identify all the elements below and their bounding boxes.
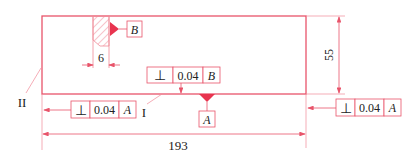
- datum-a-label: A: [202, 113, 211, 127]
- tolerance-value: 0.04: [359, 101, 380, 115]
- surface-label-ii: II: [18, 68, 41, 110]
- tolerance-frame-top-center: ⊥ 0.04 B: [147, 67, 220, 93]
- roman-one-label: I: [142, 105, 146, 120]
- tolerance-frame-right: ⊥ 0.04 A: [308, 99, 401, 116]
- datum-b-label: B: [131, 23, 139, 37]
- height-dimension: 55: [306, 16, 345, 94]
- slot-width-value: 6: [98, 51, 104, 65]
- length-value: 193: [168, 138, 188, 153]
- roman-two-label: II: [18, 95, 27, 110]
- perpendicularity-icon: ⊥: [154, 68, 166, 83]
- tolerance-frame-bottom-left: ⊥ 0.04 A: [44, 101, 136, 118]
- tolerance-value: 0.04: [94, 103, 115, 117]
- datum-a-marker: A: [199, 94, 215, 127]
- slot-width-dimension: 6: [82, 51, 120, 65]
- surface-label-i: I: [142, 94, 162, 120]
- perpendicularity-icon: ⊥: [75, 103, 87, 118]
- height-value: 55: [322, 49, 336, 61]
- tolerance-value: 0.04: [178, 69, 199, 83]
- technical-drawing: 6 B 55 ⊥ 0.04 B A: [0, 0, 417, 159]
- datum-b-marker: B: [110, 21, 142, 37]
- perpendicularity-icon: ⊥: [340, 101, 352, 116]
- tolerance-datum: A: [123, 103, 132, 117]
- length-dimension: 193: [43, 134, 305, 153]
- tolerance-datum: A: [388, 101, 397, 115]
- tolerance-datum: B: [208, 69, 216, 83]
